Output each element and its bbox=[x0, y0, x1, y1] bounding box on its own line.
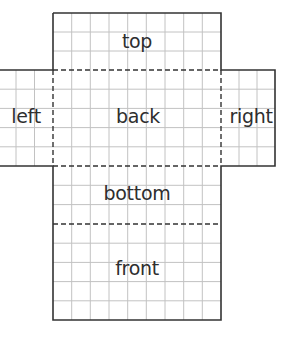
face-label-bottom: bottom bbox=[104, 183, 171, 203]
face-label-top: top bbox=[122, 31, 152, 51]
face-label-left: left bbox=[11, 106, 41, 126]
face-label-back: back bbox=[116, 106, 160, 126]
face-label-right: right bbox=[229, 106, 272, 126]
face-label-front: front bbox=[115, 258, 159, 278]
